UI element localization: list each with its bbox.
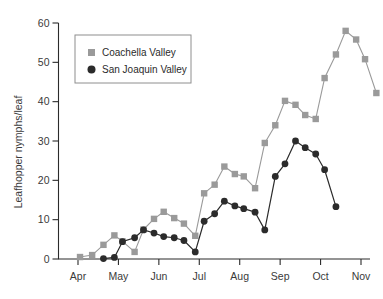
data-point-marker: [232, 171, 238, 177]
data-point-marker: [240, 205, 247, 212]
data-point-marker: [192, 249, 199, 256]
data-point-marker: [221, 198, 228, 205]
data-point-marker: [282, 98, 288, 104]
data-point-marker: [353, 36, 359, 42]
data-point-marker: [119, 238, 126, 245]
data-point-marker: [342, 28, 348, 34]
data-point-marker: [272, 173, 279, 180]
data-point-marker: [262, 140, 268, 146]
data-point-marker: [131, 234, 138, 241]
y-axis-ticks: 0102030405060: [38, 17, 59, 265]
data-point-marker: [282, 160, 289, 167]
data-point-marker: [201, 218, 208, 225]
data-point-marker: [131, 249, 137, 255]
legend-entry-coachella: Coachella Valley: [88, 47, 176, 58]
chart-legend: Coachella Valley San Joaquin Valley: [75, 35, 191, 83]
legend-frame: [75, 35, 191, 83]
data-point-marker: [373, 90, 379, 96]
x-tick-label: Apr: [70, 270, 87, 282]
data-point-marker: [192, 233, 198, 239]
data-point-marker: [100, 242, 106, 248]
data-point-marker: [292, 138, 299, 145]
x-tick-label: May: [109, 270, 130, 282]
data-point-marker: [321, 75, 327, 81]
y-tick-label: 30: [38, 135, 50, 147]
data-point-marker: [171, 234, 178, 241]
series-san-joaquin: [100, 138, 339, 262]
data-point-marker: [151, 230, 158, 237]
data-point-marker: [161, 209, 167, 215]
legend-marker-square-icon: [88, 49, 95, 56]
y-tick-label: 40: [38, 95, 50, 107]
data-point-marker: [321, 166, 328, 173]
legend-label-san-joaquin: San Joaquin Valley: [102, 64, 187, 75]
data-point-marker: [231, 203, 238, 210]
data-point-marker: [272, 122, 278, 128]
data-point-marker: [252, 209, 259, 216]
data-point-marker: [181, 237, 188, 244]
data-point-marker: [100, 255, 107, 262]
data-point-marker: [302, 112, 308, 118]
data-point-marker: [160, 233, 167, 240]
data-point-marker: [140, 226, 147, 233]
y-tick-label: 0: [44, 253, 50, 265]
legend-marker-circle-icon: [88, 66, 96, 74]
data-point-marker: [171, 215, 177, 221]
data-point-marker: [261, 226, 268, 233]
data-point-marker: [362, 56, 368, 62]
data-point-marker: [89, 252, 95, 258]
y-axis-title: Leafhopper nymphs/leaf: [12, 96, 24, 209]
data-point-marker: [181, 220, 187, 226]
data-point-marker: [333, 51, 339, 57]
data-point-marker: [201, 190, 207, 196]
data-point-marker: [292, 102, 298, 108]
chart-canvas: Leafhopper nymphs/leaf 0102030405060 Apr…: [0, 0, 383, 299]
data-point-marker: [151, 216, 157, 222]
y-tick-label: 10: [38, 213, 50, 225]
x-tick-label: Oct: [312, 270, 328, 282]
y-tick-label: 60: [38, 17, 50, 29]
x-tick-label: Jun: [150, 270, 167, 282]
legend-label-coachella: Coachella Valley: [102, 47, 176, 58]
x-tick-label: Jul: [193, 270, 206, 282]
legend-entry-san-joaquin: San Joaquin Valley: [88, 64, 187, 75]
x-tick-label: Sep: [271, 270, 290, 282]
data-point-marker: [211, 181, 217, 187]
data-point-marker: [333, 203, 340, 210]
data-point-marker: [312, 151, 319, 158]
data-point-marker: [241, 173, 247, 179]
data-point-marker: [302, 144, 309, 151]
y-tick-label: 50: [38, 56, 50, 68]
data-point-marker: [77, 254, 83, 260]
x-axis-ticks: AprMayJunJulAugSepOctNov: [70, 259, 371, 282]
series-line: [103, 141, 335, 259]
data-point-marker: [111, 254, 118, 261]
data-point-marker: [221, 163, 227, 169]
x-tick-label: Aug: [230, 270, 249, 282]
y-tick-label: 20: [38, 174, 50, 186]
data-point-marker: [211, 210, 218, 217]
leafhopper-nymph-chart: Leafhopper nymphs/leaf 0102030405060 Apr…: [0, 0, 383, 299]
data-point-marker: [111, 232, 117, 238]
data-point-marker: [252, 185, 258, 191]
x-tick-label: Nov: [352, 270, 371, 282]
data-point-marker: [313, 116, 319, 122]
